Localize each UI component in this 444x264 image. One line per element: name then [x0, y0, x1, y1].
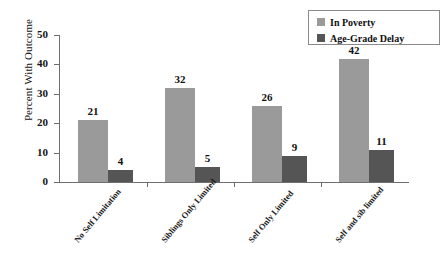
bar-age-grade-delay[interactable] — [369, 150, 394, 182]
y-tick-label: 30 — [22, 87, 48, 99]
legend-label-age-grade-delay: Age-Grade Delay — [330, 33, 404, 44]
bar-value-label: 5 — [191, 152, 225, 164]
x-category-label: Self Only Limited — [246, 188, 295, 244]
bar-in-poverty[interactable] — [78, 120, 108, 182]
bar-value-label: 42 — [337, 44, 371, 56]
x-category-label: No Self Limitation — [72, 187, 123, 245]
legend-item-age-grade-delay[interactable]: Age-Grade Delay — [317, 31, 439, 45]
y-tick-label: 50 — [22, 28, 48, 40]
bar-value-label: 11 — [365, 135, 399, 147]
bar-in-poverty[interactable] — [339, 59, 369, 182]
bar-chart: Percent With Outcome 01020304050 2143252… — [0, 0, 444, 264]
legend-swatch-icon-age-grade-delay — [317, 34, 325, 42]
plot-area: 2143252694211 — [60, 35, 408, 182]
bar-age-grade-delay[interactable] — [108, 170, 133, 182]
legend-item-in-poverty[interactable]: In Poverty — [317, 15, 439, 29]
x-tick-mark — [321, 182, 322, 187]
y-tick-label: 20 — [22, 116, 48, 128]
bar-value-label: 21 — [76, 105, 110, 117]
bar-value-label: 32 — [163, 73, 197, 85]
bar-value-label: 9 — [278, 141, 312, 153]
chart-legend: In Poverty Age-Grade Delay — [308, 10, 440, 45]
legend-swatch-icon-in-poverty — [317, 18, 325, 26]
bar-value-label: 4 — [104, 155, 138, 167]
x-category-label: Siblings Only Limited — [159, 177, 218, 245]
y-tick-label: 0 — [22, 175, 48, 187]
legend-label-in-poverty: In Poverty — [330, 17, 375, 28]
bar-age-grade-delay[interactable] — [282, 156, 307, 182]
y-tick-label: 10 — [22, 146, 48, 158]
bar-in-poverty[interactable] — [165, 88, 195, 182]
x-tick-mark — [147, 182, 148, 187]
x-category-label: Self and sib limited — [333, 185, 385, 245]
y-tick-mark — [54, 182, 60, 183]
x-tick-mark — [234, 182, 235, 187]
y-tick-label: 40 — [22, 57, 48, 69]
bar-value-label: 26 — [250, 91, 284, 103]
